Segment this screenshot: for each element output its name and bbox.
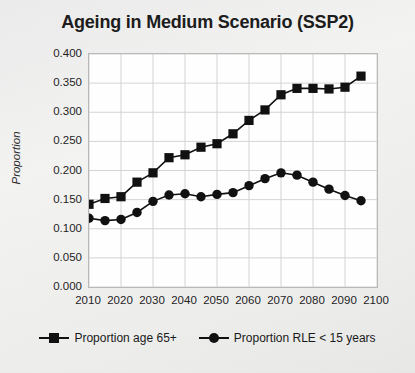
data-point-circle xyxy=(260,174,269,183)
x-tick-label: 2070 xyxy=(267,294,293,306)
x-tick-label: 2080 xyxy=(299,294,325,306)
data-point-circle xyxy=(308,177,317,186)
legend-square-icon xyxy=(39,331,69,345)
x-tick-label: 2100 xyxy=(363,294,389,306)
data-point-square xyxy=(212,139,221,148)
y-axis-label: Proportion xyxy=(10,113,22,203)
legend-entry-1[interactable]: Proportion age 65+ xyxy=(39,331,176,345)
x-tick-label: 2010 xyxy=(75,294,101,306)
data-point-square xyxy=(292,84,301,93)
data-point-circle xyxy=(340,191,349,200)
legend-circle-icon xyxy=(199,331,229,345)
x-tick-label: 2040 xyxy=(171,294,197,306)
data-point-square xyxy=(308,84,317,93)
data-point-square xyxy=(356,72,365,81)
data-point-square xyxy=(116,192,125,201)
y-tick-label: 0.000 xyxy=(36,280,82,292)
data-point-square xyxy=(244,116,253,125)
chart-title: Ageing in Medium Scenario (SSP2) xyxy=(0,12,415,33)
data-point-circle xyxy=(132,208,141,217)
x-tick-label: 2020 xyxy=(107,294,133,306)
data-point-circle xyxy=(292,170,301,179)
data-point-square xyxy=(324,84,333,93)
data-point-circle xyxy=(164,190,173,199)
chart-canvas xyxy=(89,54,377,287)
plot-area xyxy=(88,53,378,288)
data-point-circle xyxy=(356,196,365,205)
y-tick-label: 0.050 xyxy=(36,251,82,263)
data-point-square xyxy=(260,105,269,114)
y-tick-label: 0.200 xyxy=(36,164,82,176)
x-tick-label: 2030 xyxy=(139,294,165,306)
chart-legend: Proportion age 65+Proportion RLE < 15 ye… xyxy=(0,331,415,345)
data-point-circle xyxy=(180,189,189,198)
y-tick-label: 0.100 xyxy=(36,222,82,234)
data-point-circle xyxy=(148,197,157,206)
data-point-circle xyxy=(212,190,221,199)
data-point-circle xyxy=(244,181,253,190)
data-point-circle xyxy=(276,168,285,177)
legend-label: Proportion RLE < 15 years xyxy=(234,331,376,345)
data-point-square xyxy=(340,83,349,92)
x-tick-label: 2090 xyxy=(331,294,357,306)
y-tick-label: 0.250 xyxy=(36,134,82,146)
y-tick-label: 0.300 xyxy=(36,105,82,117)
data-point-circle xyxy=(324,184,333,193)
legend-entry-2[interactable]: Proportion RLE < 15 years xyxy=(199,331,376,345)
data-point-square xyxy=(180,150,189,159)
data-point-square xyxy=(164,153,173,162)
data-point-square xyxy=(89,200,94,209)
data-point-square xyxy=(100,194,109,203)
x-tick-label: 2060 xyxy=(235,294,261,306)
legend-label: Proportion age 65+ xyxy=(74,331,176,345)
y-tick-label: 0.400 xyxy=(36,47,82,59)
y-tick-label: 0.350 xyxy=(36,76,82,88)
data-point-square xyxy=(148,168,157,177)
x-tick-label: 2050 xyxy=(203,294,229,306)
data-point-square xyxy=(276,90,285,99)
chart-figure: Ageing in Medium Scenario (SSP2) Proport… xyxy=(0,0,415,373)
data-point-square xyxy=(132,178,141,187)
data-point-circle xyxy=(116,215,125,224)
series-line-2 xyxy=(89,173,361,221)
data-point-circle xyxy=(196,192,205,201)
data-point-square xyxy=(228,129,237,138)
data-point-circle xyxy=(89,214,94,223)
y-tick-label: 0.150 xyxy=(36,193,82,205)
data-point-square xyxy=(196,143,205,152)
data-point-circle xyxy=(100,216,109,225)
data-point-circle xyxy=(228,188,237,197)
